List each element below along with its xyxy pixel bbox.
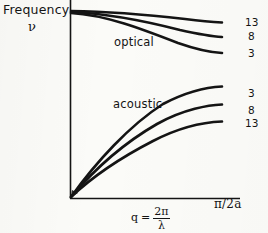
x-axis-label-equals: = xyxy=(141,211,150,224)
acoustic-curve-label-mid: 8 xyxy=(248,105,255,116)
optical-curve-label-mid: 8 xyxy=(248,31,255,42)
x-axis-label-q: q xyxy=(131,211,138,224)
x-axis-label-denominator: λ xyxy=(157,219,166,231)
optical-branch-annotation: optical xyxy=(114,37,154,49)
x-axis-label-numerator: 2π xyxy=(153,206,169,218)
y-axis-label-symbol: ν xyxy=(28,20,36,33)
acoustic-curve-8 xyxy=(71,105,222,198)
x-axis-end-label: π/2a xyxy=(214,198,242,210)
acoustic-curve-label-top: 3 xyxy=(248,88,255,99)
acoustic-curve-13 xyxy=(71,122,222,198)
x-axis-label-fraction: 2π λ xyxy=(153,206,169,231)
figure-canvas: Frequency ν optical acoustic 13 8 3 3 8 … xyxy=(0,0,268,233)
optical-curve-label-top: 13 xyxy=(245,17,258,28)
y-axis-label-word: Frequency xyxy=(3,4,69,17)
optical-curve-label-bottom: 3 xyxy=(248,48,255,59)
acoustic-branch-annotation: acoustic xyxy=(113,99,162,111)
acoustic-curve-label-bottom: 13 xyxy=(245,118,258,129)
x-axis-label-formula: q = 2π λ xyxy=(131,205,170,230)
